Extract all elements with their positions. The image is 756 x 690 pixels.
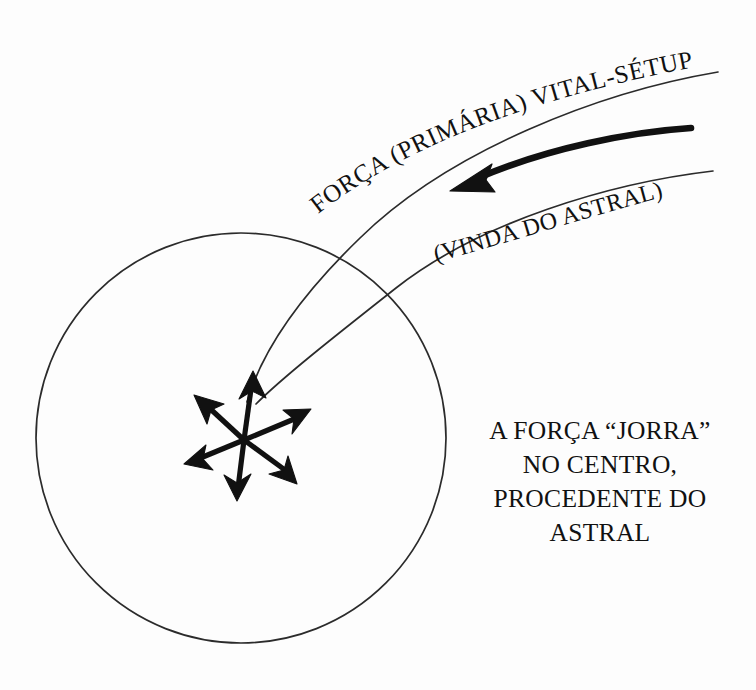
caption-line-1: A FORÇA “JORRA”	[460, 414, 740, 448]
inflow-direction-arrow-shaft	[478, 128, 691, 178]
burst-arrow-upper-right-shaft	[244, 417, 299, 440]
primary-force-label-text: FORÇA (PRIMÁRIA) VITAL-SÉTUPLA	[0, 0, 695, 218]
burst-arrow-lower-right-shaft	[244, 440, 285, 470]
force-diagram-svg: FORÇA (PRIMÁRIA) VITAL-SÉTUPLA (VINDA DO…	[0, 0, 756, 690]
caption-line-4: ASTRAL	[460, 516, 740, 550]
primary-force-label: FORÇA (PRIMÁRIA) VITAL-SÉTUPLA	[0, 0, 695, 218]
caption-line-2: NO CENTRO,	[460, 448, 740, 482]
burst-arrow-lower-left-head	[184, 445, 213, 470]
caption-line-3: PROCEDENTE DO	[460, 482, 740, 516]
inflow-direction-arrow-head	[450, 164, 495, 192]
diagram-canvas: FORÇA (PRIMÁRIA) VITAL-SÉTUPLA (VINDA DO…	[0, 0, 756, 690]
caption-block: A FORÇA “JORRA” NO CENTRO, PROCEDENTE DO…	[460, 414, 740, 550]
central-force-burst	[184, 371, 311, 501]
